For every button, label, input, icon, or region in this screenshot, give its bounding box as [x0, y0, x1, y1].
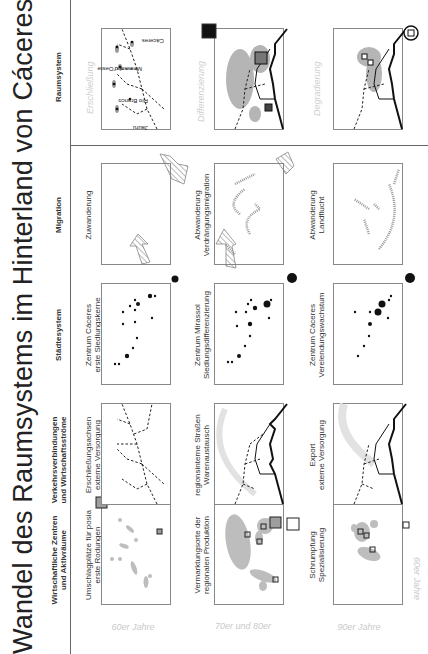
caption-line: Spezialisierung — [317, 505, 326, 605]
road-network-map-r2 — [215, 404, 283, 504]
row-label-70er-80er: 70er und 80er — [215, 621, 271, 631]
panel-migration-r3 — [333, 163, 403, 265]
column-header-migration: Migration — [54, 155, 63, 275]
panel-verkehr-r3 — [333, 403, 403, 505]
row-label-90er-jahre: 90er Jahre — [337, 622, 380, 632]
settlements-map-r3 — [334, 284, 402, 384]
caceres-hub-r3 — [402, 24, 420, 42]
column-header-staedte: Städtesystem — [54, 275, 63, 395]
column-header-raum: Raumsystem — [54, 17, 63, 137]
panel-raum-r2 — [214, 28, 284, 130]
caption-line: Warenaustausch — [202, 405, 211, 505]
place-mirassol: Mirassol d'Oeste — [97, 66, 142, 72]
caption-line: Vermarktungsorte der — [193, 505, 202, 605]
caption-line: Zentrum Mirassol — [193, 285, 202, 385]
row-label-60er: 60er Jahre — [412, 557, 422, 600]
settlements-map-r2 — [215, 284, 283, 384]
column-header-line: Städtesystem — [54, 275, 63, 395]
panel-verkehr-r1 — [101, 403, 171, 505]
caption-staedte-r2: Zentrum Mirassol Siedlungsdifferenzierun… — [193, 285, 211, 385]
panel-staedte-r3 — [333, 283, 403, 385]
page-title: Wandel des Raumsystems im Hinterland von… — [8, 0, 39, 654]
panel-staedte-r2 — [214, 283, 284, 385]
column-header-line: und Wirtschaftsströme — [59, 400, 68, 520]
label-differenzierung: Differenzierung — [196, 61, 206, 122]
settlements-map — [102, 284, 170, 384]
caption-wirtschaft-r3: Schrumpfung Spezialisierung — [308, 505, 326, 605]
caption-verkehr-r2: regionsinterne Straßen Warenaustausch — [193, 405, 211, 505]
caption-line: Umschlagplätze für posia — [84, 505, 93, 605]
caption-staedte-r3: Zentrum Cáceres Verelendungswachstum — [308, 285, 326, 385]
caption-line: externe Versorgung — [317, 405, 326, 505]
spatial-system-map-r1: Jauru Rio Branco Mirassol d'Oeste Cácere… — [102, 29, 170, 129]
caption-line: Zentrum Cáceres — [84, 285, 93, 385]
caption-line: Schrumpfung — [308, 505, 317, 605]
caption-line: Zentrum Cáceres — [308, 285, 317, 385]
column-header-verkehr: Verkehrsverbindungen und Wirtschaftsströ… — [50, 400, 68, 520]
market-areas-map — [215, 504, 283, 604]
caption-line: Abwanderung — [308, 165, 317, 265]
spatial-system-map-r3 — [334, 29, 402, 129]
place-caceres: Cáceres — [142, 38, 164, 44]
caption-verkehr-r3: Export externe Versorgung — [308, 405, 326, 505]
rural-exodus-map — [334, 164, 402, 264]
caption-line: Landflucht — [317, 165, 326, 265]
market-square-legend-r3 — [402, 519, 412, 529]
label-erschliessung: Erschließung — [85, 61, 95, 114]
shrinking-areas-map — [334, 504, 402, 604]
immigration-arrows — [90, 144, 190, 274]
caption-line: regionsinterne Straßen — [193, 405, 202, 505]
caption-line: Verelendungswachstum — [317, 285, 326, 385]
emigration-arrows — [206, 144, 296, 274]
panel-wirtschaft-r2 — [214, 503, 284, 605]
caption-line: Export — [308, 405, 317, 505]
column-header-line: Verkehrsverbindungen — [50, 400, 59, 520]
caceres-hub-r2 — [200, 20, 220, 40]
market-square-legend-r2 — [286, 517, 300, 531]
caption-line: Abwanderung — [193, 165, 202, 265]
panel-verkehr-r2 — [214, 403, 284, 505]
column-header-line: Migration — [54, 155, 63, 275]
road-network-map — [102, 404, 170, 504]
panel-raum-r1: Jauru Rio Branco Mirassol d'Oeste Cácere… — [101, 28, 171, 130]
spatial-system-map-r2 — [215, 29, 283, 129]
row-label-60er-jahre: 60er Jahre — [111, 622, 154, 632]
center-dot-legend — [170, 274, 180, 284]
place-rio-branco: Rio Branco — [118, 98, 148, 104]
column-header-line: Raumsystem — [54, 17, 63, 137]
caption-verkehr-r1: Erschließungsachsen externe Versorgung — [84, 405, 102, 505]
place-jauru: Jauru — [133, 125, 148, 131]
road-network-map-r3 — [334, 404, 402, 504]
panel-wirtschaft-r3 — [333, 503, 403, 605]
caption-staedte-r1: Zentrum Cáceres erste Siedlungskerne — [84, 285, 102, 385]
panel-staedte-r1 — [101, 283, 171, 385]
center-dot-legend-r3 — [404, 272, 416, 284]
caption-migration-r3: Abwanderung Landflucht — [308, 165, 326, 265]
header-divider — [70, 0, 71, 654]
label-degradierung: Degradierung — [312, 61, 322, 116]
panel-raum-r3 — [333, 28, 403, 130]
caption-line: Siedlungsdifferenzierung — [202, 285, 211, 385]
diagram-page: Wandel des Raumsystems im Hinterland von… — [0, 0, 428, 654]
caption-line: regionalen Produktion — [202, 505, 211, 605]
caption-wirtschaft-r2: Vermarktungsorte der regionalen Produkti… — [193, 505, 211, 605]
caption-line: Erschließungsachsen — [84, 405, 93, 505]
